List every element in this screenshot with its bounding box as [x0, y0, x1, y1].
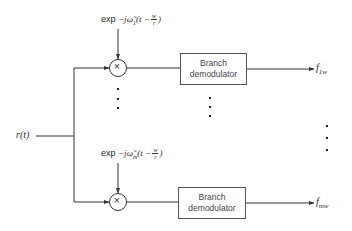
output-sub: mw: [319, 202, 329, 210]
block-diagram: [0, 0, 352, 231]
mixer-1-symbol: ×: [114, 62, 120, 72]
block-label-line2: demodulator: [188, 203, 235, 214]
output-m-label: fmw: [316, 197, 329, 210]
minus: −: [145, 148, 151, 158]
block-label-line1: Branch: [190, 58, 237, 69]
output-sub: 1w: [319, 68, 327, 76]
t: t: [140, 148, 143, 158]
ellipsis-mixers: [117, 88, 119, 109]
fraction: wr: [152, 147, 158, 160]
branch-demodulator-m: Branch demodulator: [178, 187, 246, 219]
block-label-line1: Branch: [188, 192, 235, 203]
branch-demodulator-1: Branch demodulator: [180, 53, 247, 85]
exp-text: exp: [101, 148, 116, 158]
oscillator-1-label: exp −jω̃1(t −wr): [101, 13, 161, 26]
exp-text: exp: [101, 14, 116, 24]
input-signal-label: r(t): [16, 130, 29, 140]
minus: −: [144, 14, 150, 24]
output-1-label: f1w: [316, 63, 327, 76]
ellipsis-outputs: [326, 125, 328, 151]
ellipsis-blocks: [209, 97, 211, 117]
oscillator-m-label: exp −jω̃m(t −wr): [101, 147, 162, 160]
fraction: wr: [151, 13, 157, 26]
t: t: [139, 14, 142, 24]
block-label-line2: demodulator: [190, 69, 237, 80]
mixer-m-symbol: ×: [114, 196, 120, 206]
